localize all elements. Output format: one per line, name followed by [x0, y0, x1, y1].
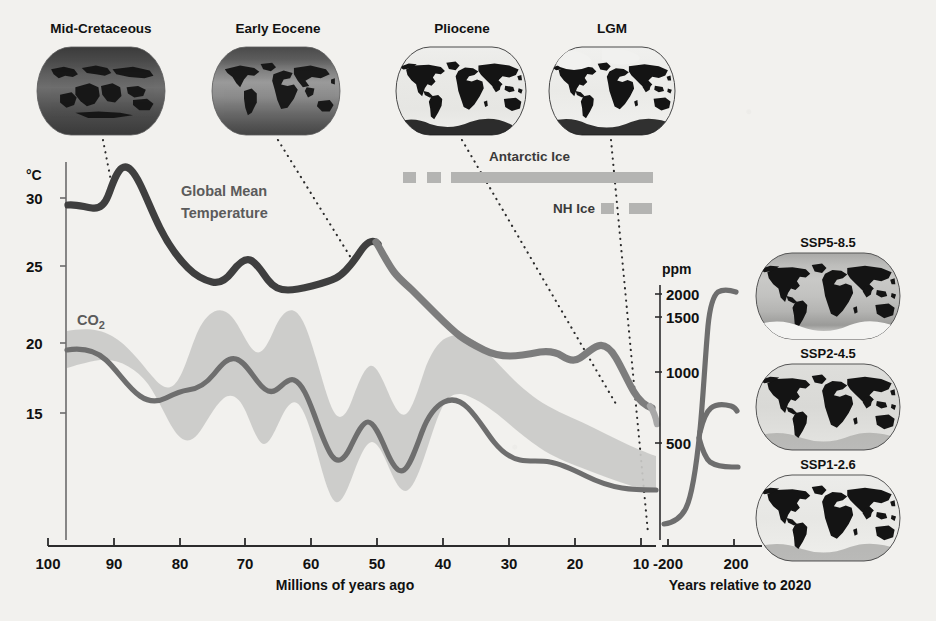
ssp-map-label: SSP5-8.5 [800, 235, 856, 250]
right-axis-tick-label: 1000 [666, 364, 699, 381]
nh-ice-bar [629, 203, 652, 214]
ssp-map-label: SSP2-4.5 [800, 346, 856, 361]
paleo-map-label: Early Eocene [236, 21, 321, 36]
x-axis-title: Millions of years ago [276, 577, 414, 593]
right-axis-tick-label: 1500 [666, 309, 699, 326]
left-axis-tick-label: 25 [26, 258, 43, 275]
nh-ice-segment [601, 203, 614, 214]
paleo-map-label: Pliocene [434, 21, 490, 36]
x-axis-tick-label: 40 [435, 555, 452, 572]
x-axis-tick-label: 80 [172, 555, 189, 572]
antarctic-ice-segment [427, 172, 441, 183]
gmt-annotation-line2: Temperature [181, 205, 268, 221]
paleo-map-label: LGM [597, 21, 627, 36]
paleoclimate-figure: Mid-Cretaceous Early Eocene Pliocene [0, 0, 936, 621]
x-axis-tick-label: 50 [369, 555, 386, 572]
x-axis-tick-label: 10 [633, 555, 650, 572]
x-axis-tick-label: 60 [303, 555, 320, 572]
ssp-map-group: SSP5-8.5 SSP2-4.5 SSP1-2.6 [756, 235, 900, 561]
x-axis-tick-label: 30 [501, 555, 518, 572]
ssp-map-label: SSP1-2.6 [800, 457, 856, 472]
right-axis-tick-label: 500 [666, 435, 691, 452]
ppm-unit-label: ppm [662, 261, 692, 277]
antarctic-ice-label: Antarctic Ice [489, 149, 571, 164]
nh-ice-label: NH Ice [553, 201, 596, 216]
right-x-axis-title: Years relative to 2020 [669, 577, 812, 593]
temperature-unit-label: °C [26, 167, 42, 183]
x-axis-tick-label: 20 [567, 555, 584, 572]
x-axis-tick-label: 90 [106, 555, 123, 572]
right-x-axis-tick-label: 200 [723, 555, 748, 572]
left-axis-tick-label: 15 [26, 405, 43, 422]
right-x-axis-tick-label: -200 [653, 555, 683, 572]
paleo-map-label: Mid-Cretaceous [50, 21, 151, 36]
antarctic-ice-bar [451, 172, 653, 183]
x-axis-tick-label: 100 [35, 555, 60, 572]
right-axis-tick-label: 2000 [666, 286, 699, 303]
x-axis-tick-label: 70 [237, 555, 254, 572]
left-axis-tick-label: 30 [26, 190, 43, 207]
antarctic-ice-segment [403, 172, 416, 183]
left-axis-tick-label: 20 [26, 335, 43, 352]
gmt-annotation-line1: Global Mean [181, 183, 267, 199]
